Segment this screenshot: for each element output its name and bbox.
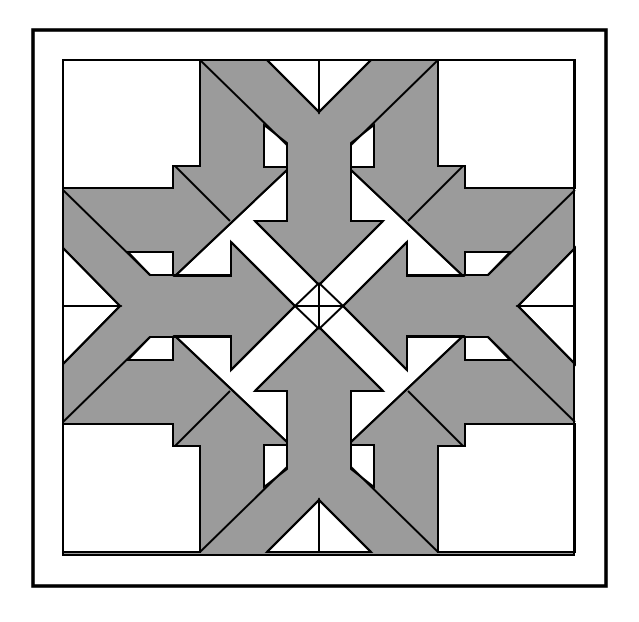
quilt-block-canvas: Quilt block pattern with four arrow arms [0,0,639,622]
quilt-block [63,60,575,555]
